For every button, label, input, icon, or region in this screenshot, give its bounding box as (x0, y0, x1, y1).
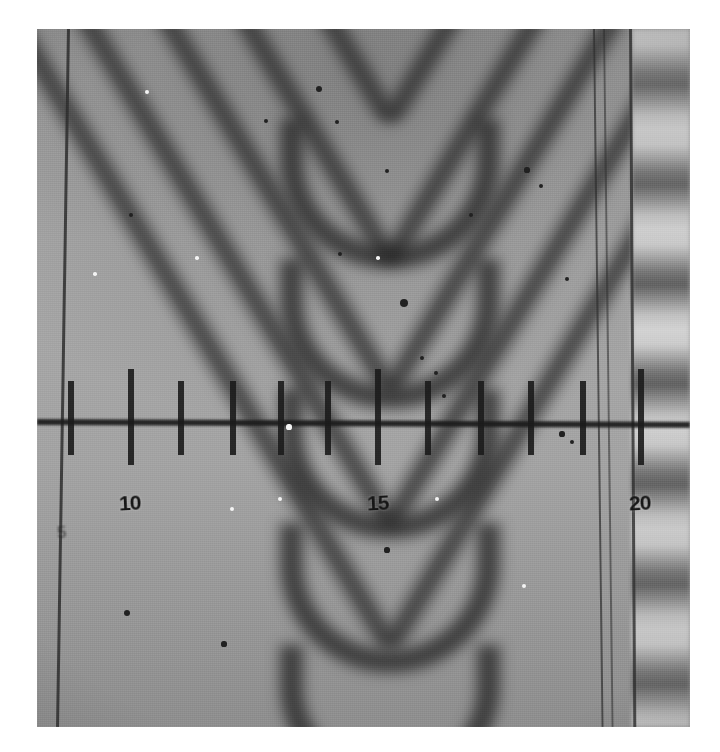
emulsion-speck (221, 641, 226, 646)
scale-label: 10 (118, 490, 141, 515)
emulsion-speck (316, 86, 322, 92)
measuring-reticle: 5101520 (37, 29, 690, 727)
emulsion-speck (524, 167, 529, 172)
emulsion-speck (435, 497, 439, 501)
emulsion-speck (286, 424, 291, 429)
reticle-tick (425, 381, 431, 455)
emulsion-speck (129, 213, 133, 217)
reticle-tick (478, 381, 484, 455)
reticle-tick (178, 381, 184, 455)
reticle-tick (230, 381, 236, 455)
scale-label: 15 (366, 490, 389, 515)
emulsion-speck (145, 90, 149, 94)
emulsion-speck (522, 584, 526, 588)
emulsion-speck (376, 256, 380, 260)
scale-label: 5 (56, 523, 66, 543)
scale-label: 20 (628, 490, 651, 515)
emulsion-speck (434, 371, 438, 375)
reticle-tick-15 (375, 369, 381, 465)
emulsion-speck (93, 272, 97, 276)
reticle-tick-10 (128, 369, 134, 465)
photomicrograph-plate: 5101520 (37, 29, 690, 727)
reticle-tick (528, 381, 534, 455)
reticle-tick (278, 381, 284, 455)
emulsion-speck (384, 547, 389, 552)
emulsion-speck (195, 256, 199, 260)
reticle-tick (580, 381, 586, 455)
reticle-axis-line (37, 419, 690, 428)
emulsion-speck (442, 394, 446, 398)
reticle-tick-20 (638, 369, 644, 465)
emulsion-speck (559, 431, 564, 436)
reticle-tick (68, 381, 74, 455)
emulsion-speck (230, 507, 234, 511)
emulsion-speck (124, 610, 130, 616)
reticle-tick (325, 381, 331, 455)
emulsion-speck (385, 169, 389, 173)
emulsion-speck (469, 213, 473, 217)
